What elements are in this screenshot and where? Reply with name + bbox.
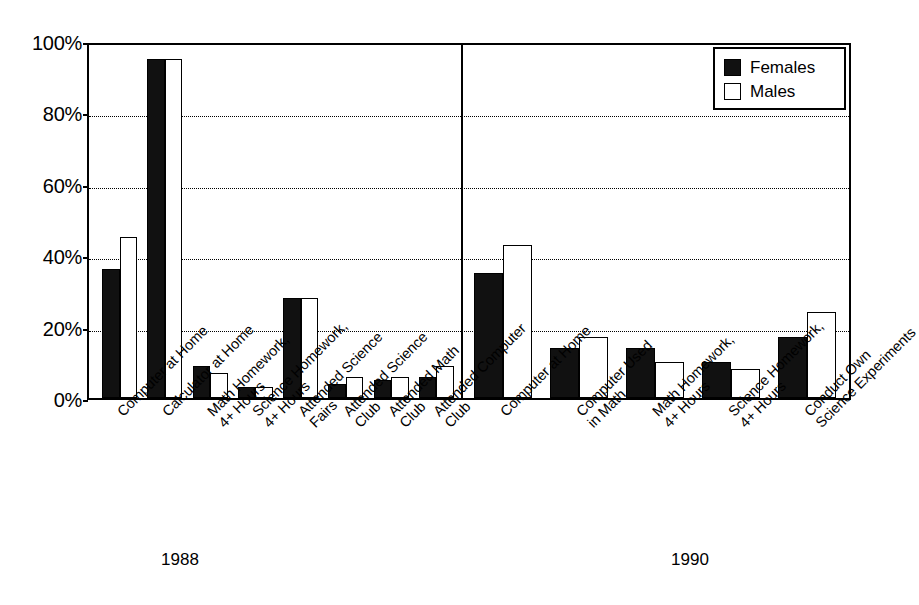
y-tick-label-80: 80% <box>12 104 82 124</box>
y-tick-label-100: 100% <box>12 33 82 53</box>
y-tick-label-20: 20% <box>12 319 82 339</box>
year-label-1988: 1988 <box>135 550 225 570</box>
y-tick-mark-0 <box>83 400 88 402</box>
year-label-1990: 1990 <box>645 550 735 570</box>
bar-1988-females-1 <box>147 59 164 398</box>
bar-1988-females-0 <box>102 269 119 398</box>
legend-swatch-males-icon <box>724 83 741 100</box>
legend-label-males: Males <box>750 83 795 100</box>
legend-swatch-females-icon <box>724 59 741 76</box>
legend-item-females: Females <box>724 55 844 79</box>
y-axis: 100% 80% 60% 40% 20% 0% <box>0 0 82 605</box>
y-tick-label-40: 40% <box>12 247 82 267</box>
y-tick-label-60: 60% <box>12 176 82 196</box>
y-tick-label-0: 0% <box>12 390 82 410</box>
bar-1988-males-0 <box>120 237 137 398</box>
legend-label-females: Females <box>750 59 815 76</box>
legend: Females Males <box>713 47 846 110</box>
legend-item-males: Males <box>724 79 844 103</box>
